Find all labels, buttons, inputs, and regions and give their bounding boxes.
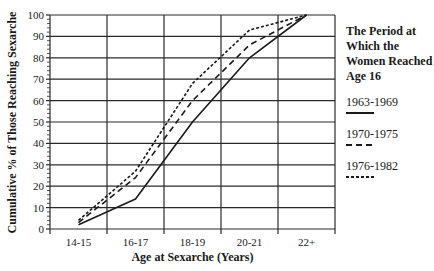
- y-tick-label: 30: [33, 159, 45, 171]
- y-tick-label: 80: [33, 52, 45, 64]
- x-axis-label: Age at Sexarche (Years): [50, 250, 335, 265]
- legend-label: 1976-1982: [346, 159, 434, 173]
- dashed-line-swatch-icon: [346, 142, 376, 148]
- legend-item-1970-1975: 1970-1975: [346, 127, 434, 148]
- x-tick-label: 22+: [298, 236, 315, 248]
- y-tick-label: 90: [33, 30, 45, 42]
- chart-grid: [50, 15, 335, 234]
- legend-label: 1963-1969: [346, 95, 434, 109]
- x-tick-label: 20-21: [237, 236, 263, 248]
- series-line-1963-1969: [79, 15, 307, 225]
- y-tick-label: 20: [33, 180, 45, 192]
- dotted-line-swatch-icon: [346, 174, 376, 180]
- series-line-1970-1975: [79, 15, 307, 223]
- legend: The Period at Which the Women Reached Ag…: [346, 24, 434, 180]
- x-tick-label: 14-15: [66, 236, 92, 248]
- y-tick-label: 40: [33, 137, 45, 149]
- y-tick-label: 0: [39, 223, 45, 235]
- y-axis-title: Cumulative % of Those Reaching Sexarche: [6, 11, 21, 233]
- y-tick-label: 50: [33, 116, 45, 128]
- series-line-1976-1982: [79, 15, 307, 220]
- x-tick-label: 18-19: [180, 236, 206, 248]
- legend-title: The Period at Which the Women Reached Ag…: [346, 24, 434, 84]
- legend-item-1976-1982: 1976-1982: [346, 159, 434, 180]
- y-axis-label: Cumulative % of Those Reaching Sexarche: [2, 14, 24, 230]
- legend-label: 1970-1975: [346, 127, 434, 141]
- y-tick-label: 60: [33, 95, 45, 107]
- y-tick-label: 100: [28, 9, 45, 21]
- solid-line-swatch-icon: [346, 110, 376, 116]
- y-tick-label: 70: [33, 73, 45, 85]
- legend-item-1963-1969: 1963-1969: [346, 95, 434, 116]
- data-series: [79, 15, 307, 225]
- y-tick-label: 10: [33, 202, 45, 214]
- x-tick-label: 16-17: [123, 236, 149, 248]
